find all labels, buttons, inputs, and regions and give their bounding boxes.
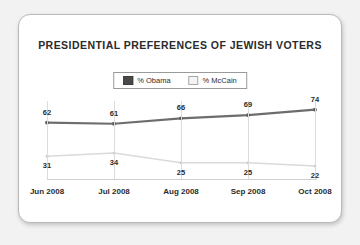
x-axis-category-label: Aug 2008 xyxy=(163,187,199,196)
data-value-label: 62 xyxy=(43,108,51,117)
data-value-label: 25 xyxy=(244,168,252,177)
data-value-label: 31 xyxy=(43,161,51,170)
legend-label-mccain: % McCain xyxy=(203,76,237,85)
x-axis-category-label: Jun 2008 xyxy=(30,187,64,196)
chart-legend: % Obama % McCain xyxy=(113,72,247,89)
legend-swatch-mccain-icon xyxy=(189,76,199,85)
legend-label-obama: % Obama xyxy=(137,76,170,85)
legend-item-mccain: % McCain xyxy=(189,76,237,85)
x-axis-line xyxy=(47,179,317,180)
x-axis-category-label: Jul 2008 xyxy=(98,187,130,196)
x-axis-category-label: Sep 2008 xyxy=(231,187,266,196)
data-value-label: 69 xyxy=(244,100,252,109)
data-value-label: 61 xyxy=(110,109,118,118)
x-axis-category-label: Oct 2008 xyxy=(298,187,331,196)
data-value-label: 34 xyxy=(110,158,118,167)
data-value-label: 66 xyxy=(177,103,185,112)
legend-item-obama: % Obama xyxy=(123,76,170,85)
page-title: PRESIDENTIAL PREFERENCES OF JEWISH VOTER… xyxy=(19,39,341,51)
data-value-label: 74 xyxy=(311,95,319,104)
gridline xyxy=(315,101,316,179)
legend-swatch-obama-icon xyxy=(123,76,133,85)
data-value-label: 22 xyxy=(311,171,319,180)
data-value-label: 25 xyxy=(177,168,185,177)
chart-card: PRESIDENTIAL PREFERENCES OF JEWISH VOTER… xyxy=(18,14,342,223)
